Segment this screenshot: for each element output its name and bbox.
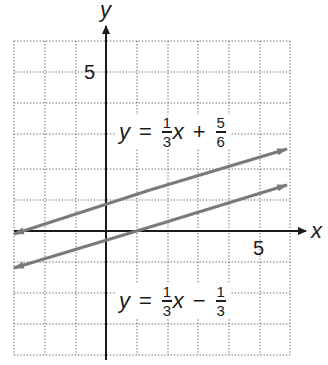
fraction-coefficient: 13 (162, 115, 172, 149)
y-tick-label-5: 5 (84, 61, 95, 84)
fraction-constant: 56 (216, 115, 226, 149)
plot-lines (14, 149, 287, 268)
fraction-constant: 13 (216, 284, 226, 318)
x-axis-label: x (311, 218, 322, 244)
fraction-coefficient: 13 (162, 284, 172, 318)
equation-label-lower: y = 13 x − 13 (116, 284, 230, 318)
line-upper-left (14, 190, 150, 234)
equation-label-upper: y = 13 x + 56 (116, 115, 230, 149)
y-axis-label: y (100, 0, 111, 23)
x-tick-label-5: 5 (253, 237, 264, 260)
line-upper (150, 149, 287, 190)
line-lower (150, 185, 287, 227)
